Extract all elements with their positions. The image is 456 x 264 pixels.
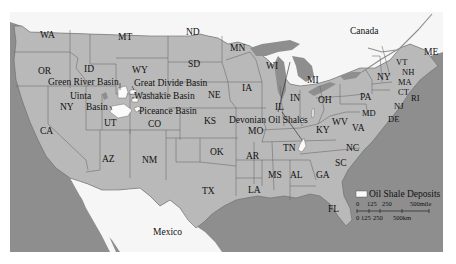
label-mn: MN: [230, 43, 245, 53]
label-green-river-basin: Green River Basin: [48, 77, 119, 87]
label-al: AL: [290, 170, 303, 180]
label-la: LA: [248, 185, 261, 195]
label-nc: NC: [346, 143, 359, 153]
label-ne: NE: [208, 90, 221, 100]
label-tx: TX: [202, 186, 215, 196]
scale-mile-0: 0: [356, 200, 359, 207]
label-de: DE: [388, 114, 399, 124]
label-mexico: Mexico: [153, 227, 182, 237]
label-ks: KS: [204, 116, 216, 126]
label-ok: OK: [210, 147, 224, 157]
label-ms: MS: [268, 170, 282, 180]
label-nv: NY: [60, 102, 74, 112]
label-washakie-basin: Washakie Basin: [134, 91, 195, 101]
deposit-devonian-oh: [312, 108, 314, 118]
label-az: AZ: [102, 154, 115, 164]
label-ct: CT: [398, 87, 410, 97]
label-fl: FL: [328, 204, 339, 214]
label-mt: MT: [118, 32, 132, 42]
label-wa: WA: [40, 30, 55, 40]
scale-km-250: 250: [373, 214, 383, 221]
legend-swatch: [356, 191, 367, 197]
scale-mile-250: 250: [382, 200, 392, 207]
label-nh: NH: [402, 67, 414, 77]
label-canada: Canada: [350, 26, 379, 36]
label-il: IL: [275, 102, 284, 112]
label-sd: SD: [188, 59, 200, 69]
deposit-green-river: [118, 86, 128, 98]
label-devonian-oil-shales: Devonian Oil Shales: [229, 115, 308, 125]
label-ga: GA: [316, 170, 330, 180]
legend-label: Oil Shale Deposits: [369, 189, 441, 199]
scale-mile-500: 500mile: [410, 200, 431, 207]
label-piceance-basin: Piceance Basin: [139, 106, 197, 116]
label-co: CO: [148, 119, 161, 129]
scale-km-500: 500km: [393, 214, 411, 221]
label-tn: TN: [283, 143, 296, 153]
label-va: VA: [352, 123, 365, 133]
label-mo: MO: [248, 126, 263, 136]
label-ia: IA: [242, 83, 252, 93]
label-id: ID: [84, 64, 94, 74]
label-vt: VT: [396, 57, 408, 67]
label-ut: UT: [104, 118, 117, 128]
label-me: ME: [424, 47, 438, 57]
label-ma: MA: [398, 77, 413, 87]
label-ky: KY: [316, 125, 330, 135]
label-uinta-line2: Basin: [86, 102, 108, 112]
label-md: MD: [362, 108, 376, 118]
label-nd: ND: [186, 27, 200, 37]
label-pa: PA: [360, 92, 371, 102]
scale-km-0: 0: [356, 214, 359, 221]
label-uinta-line1: Uinta: [70, 91, 92, 101]
scale-km-125: 125: [361, 214, 371, 221]
label-wi: WI: [266, 61, 278, 71]
label-nj: NJ: [394, 101, 404, 111]
label-great-divide-basin: Great Divide Basin: [134, 78, 208, 88]
label-wy: WY: [132, 65, 148, 75]
label-ri: RI: [411, 93, 420, 103]
label-ny: NY: [377, 72, 391, 82]
scale-mile-125: 125: [367, 200, 377, 207]
label-mi: MI: [307, 75, 319, 85]
label-in: IN: [290, 93, 300, 103]
label-sc: SC: [335, 158, 347, 168]
label-ar: AR: [246, 151, 260, 161]
label-wv: WV: [332, 117, 348, 127]
label-ca: CA: [40, 126, 53, 136]
legend: Oil Shale Deposits: [356, 189, 441, 199]
label-oh: OH: [318, 95, 332, 105]
oil-shale-map: Canada Mexico WA OR CA ID NY MT WY UT CO…: [0, 0, 456, 264]
label-or: OR: [38, 66, 52, 76]
label-nm: NM: [142, 155, 158, 165]
